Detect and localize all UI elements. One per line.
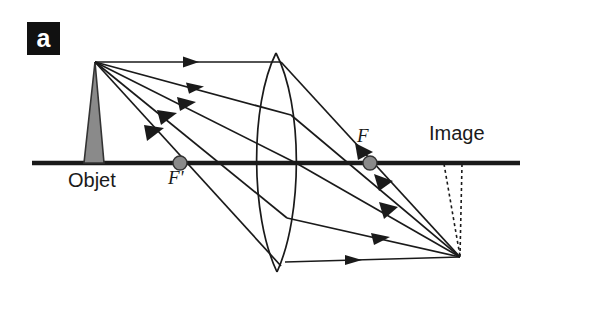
arrowhead-refracted-2 [374,174,393,191]
image-label: Image [429,122,485,145]
image-dashed-right [460,164,462,256]
arrowhead-incident-4 [157,110,177,125]
arrowhead-incident-1 [183,57,199,68]
focal-point-far [363,156,377,170]
focal-far-label: F [357,125,369,147]
object-arrow [84,62,104,163]
arrowhead-refracted-4 [371,233,390,245]
refracted-ray-parallel [285,257,460,262]
arrowhead-incident-2 [186,83,204,94]
object-label: Objet [68,169,116,192]
incident-ray-center [95,62,296,163]
arrowhead-refracted-5 [345,255,362,265]
ray-diagram-svg [0,0,598,333]
focal-near-label: F' [168,167,184,189]
figure-canvas: a [0,0,598,333]
arrowhead-incident-5 [144,125,164,141]
